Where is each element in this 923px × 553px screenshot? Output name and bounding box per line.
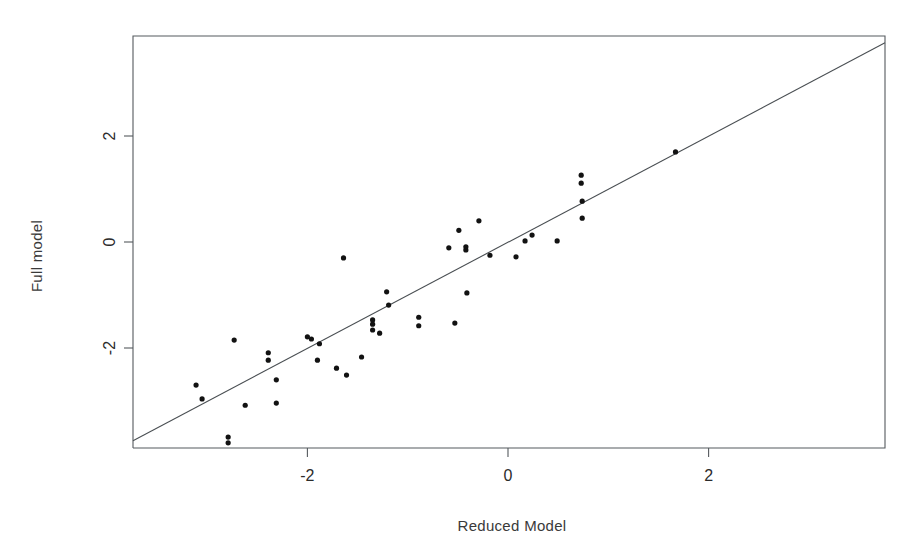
data-point xyxy=(446,245,451,250)
data-point xyxy=(580,199,585,204)
x-tick-label: 2 xyxy=(704,467,713,484)
data-point xyxy=(452,320,457,325)
x-axis-title: Reduced Model xyxy=(458,517,567,534)
data-point xyxy=(416,323,421,328)
data-point xyxy=(226,434,231,439)
data-point xyxy=(370,322,375,327)
data-point xyxy=(513,254,518,259)
data-point xyxy=(384,289,389,294)
x-tick-label: 0 xyxy=(504,467,513,484)
data-point xyxy=(377,331,382,336)
data-point xyxy=(579,181,584,186)
data-point xyxy=(476,218,481,223)
data-point xyxy=(226,440,231,445)
data-point xyxy=(522,238,527,243)
data-point xyxy=(580,216,585,221)
data-point xyxy=(317,341,322,346)
y-axis-title: Full model xyxy=(28,220,45,292)
data-point xyxy=(199,396,204,401)
y-tick-label: 2 xyxy=(101,131,118,140)
data-point xyxy=(266,358,271,363)
data-point xyxy=(464,290,469,295)
figure-background xyxy=(0,0,923,553)
data-point xyxy=(555,238,560,243)
data-point xyxy=(315,358,320,363)
data-point xyxy=(529,233,534,238)
data-point xyxy=(309,336,314,341)
y-tick-label: -2 xyxy=(101,341,118,355)
data-point xyxy=(334,366,339,371)
data-point xyxy=(386,302,391,307)
data-point xyxy=(266,350,271,355)
data-point xyxy=(341,255,346,260)
data-point xyxy=(344,372,349,377)
data-point xyxy=(463,244,468,249)
data-point xyxy=(370,327,375,332)
x-tick-label: -2 xyxy=(300,467,314,484)
data-point xyxy=(487,253,492,258)
data-point xyxy=(193,383,198,388)
data-point xyxy=(274,401,279,406)
chart-canvas: -202 -202 Reduced Model Full model xyxy=(0,0,923,553)
data-point xyxy=(579,173,584,178)
data-point xyxy=(274,377,279,382)
scatter-plot-figure: -202 -202 Reduced Model Full model xyxy=(0,0,923,553)
data-point xyxy=(416,315,421,320)
data-point xyxy=(359,354,364,359)
data-point xyxy=(232,337,237,342)
data-point xyxy=(243,403,248,408)
data-point xyxy=(673,149,678,154)
y-tick-label: 0 xyxy=(101,237,118,246)
data-point xyxy=(456,228,461,233)
